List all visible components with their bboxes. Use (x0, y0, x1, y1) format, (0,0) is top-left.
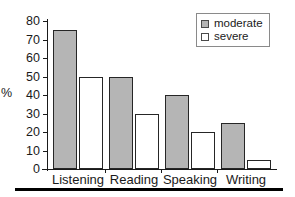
y-tick-label-50: 50 (18, 71, 40, 84)
bar-writing-moderate (221, 123, 245, 169)
y-tick-label-70: 70 (18, 34, 40, 47)
x-category-label-writing: Writing (215, 173, 277, 187)
legend-swatch-severe-icon (201, 33, 209, 41)
y-tick-label-group: 80 70 60 50 40 30 20 10 0 (16, 0, 40, 197)
y-tick-label-60: 60 (18, 52, 40, 65)
bar-listening-moderate (53, 30, 77, 169)
y-tick-label-80: 80 (18, 15, 40, 28)
bar-group-listening (47, 21, 109, 169)
bar-listening-severe (79, 77, 103, 170)
bar-speaking-severe (191, 132, 215, 169)
y-tick-label-20: 20 (18, 126, 40, 139)
y-tick-label-30: 30 (18, 108, 40, 121)
x-category-label-listening: Listening (47, 173, 109, 187)
x-category-label-reading: Reading (103, 173, 165, 187)
bar-reading-moderate (109, 77, 133, 170)
legend-item-severe: severe (201, 30, 263, 43)
legend-item-moderate: moderate (201, 17, 263, 30)
chart-legend: moderate severe (196, 13, 270, 47)
legend-label-severe: severe (214, 31, 249, 43)
y-tick-label-10: 10 (18, 145, 40, 158)
y-tick-label-40: 40 (18, 89, 40, 102)
y-tick-label-0: 0 (18, 163, 40, 176)
bar-speaking-moderate (165, 95, 189, 169)
x-category-label-speaking: Speaking (159, 173, 221, 187)
bar-group-reading (103, 21, 165, 169)
y-tick-mark-0 (43, 169, 48, 170)
y-axis-title: % (1, 87, 12, 100)
bar-reading-severe (135, 114, 159, 170)
legend-swatch-moderate-icon (201, 20, 209, 28)
bar-writing-severe (247, 160, 271, 169)
bottom-rule-divider (15, 188, 283, 191)
x-axis-line (42, 169, 277, 170)
bar-chart-figure: % 80 70 60 50 40 30 20 10 0 (0, 0, 295, 197)
legend-label-moderate: moderate (214, 18, 263, 30)
